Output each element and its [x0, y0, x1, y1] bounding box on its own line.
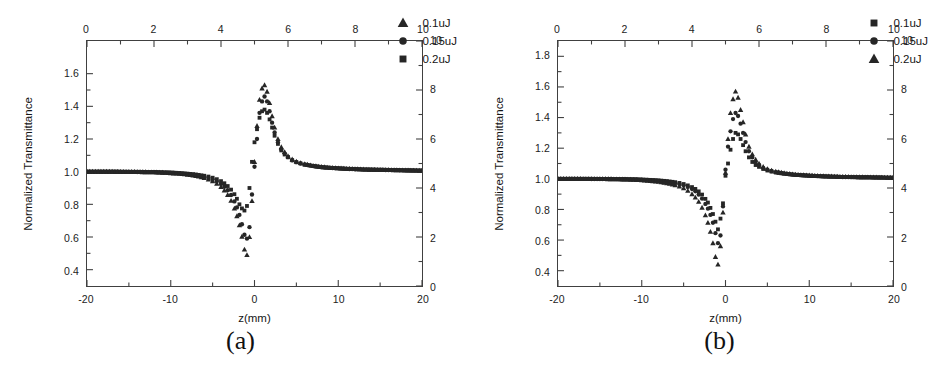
- y-tick-left: 1.8: [535, 49, 550, 61]
- x-tick-bottom: -10: [163, 293, 178, 305]
- y-tick-left: 1.4: [64, 100, 79, 112]
- y-tick-left: 0.8: [535, 204, 550, 216]
- x-tick-top: 8: [824, 23, 830, 35]
- square-marker-icon: [868, 17, 880, 29]
- y-axis-title-a: Normalized Transmittance: [20, 40, 36, 287]
- legend-label: 0.1uJ: [422, 17, 450, 29]
- y-tick-left: 1.6: [535, 80, 550, 92]
- triangle-marker-icon: [397, 17, 409, 29]
- legend-label: 0.1uJ: [893, 17, 921, 29]
- x-tick-top: 6: [756, 23, 762, 35]
- legend-item[interactable]: 0.15uJ: [868, 34, 928, 48]
- y-tick-left: 0.6: [535, 235, 550, 247]
- y-tick-right: 0: [901, 281, 907, 293]
- y-tick-left: 1.2: [64, 133, 79, 145]
- legend-item[interactable]: 0.1uJ: [868, 16, 928, 30]
- panel-caption-a: (a): [0, 326, 471, 356]
- y-tick-left: 0.6: [64, 232, 79, 244]
- x-tick-bottom: 0: [252, 293, 258, 305]
- y-tick-right: 6: [901, 133, 907, 145]
- y-tick-right: 4: [901, 182, 907, 194]
- x-tick-top: 4: [689, 23, 695, 35]
- series-0.15uJ: [87, 94, 422, 240]
- y-tick-left: 0.4: [535, 266, 550, 278]
- x-tick-top: 2: [150, 23, 156, 35]
- legend-label: 0.15uJ: [422, 35, 457, 47]
- x-tick-top: 4: [218, 23, 224, 35]
- legend-label: 0.2uJ: [422, 53, 450, 65]
- square-marker-icon: [397, 53, 409, 65]
- y-tick-right: 2: [901, 232, 907, 244]
- x-tick-bottom: -10: [634, 293, 649, 305]
- panel-caption-label-a: (a): [216, 326, 255, 355]
- y-tick-left: 1.0: [535, 173, 550, 185]
- circle-marker-icon: [397, 35, 409, 47]
- x-tick-bottom: 20: [417, 293, 429, 305]
- legend-item[interactable]: 0.1uJ: [397, 16, 457, 30]
- x-tick-bottom: 10: [804, 293, 816, 305]
- scatter-plot-a: [87, 41, 422, 286]
- panel-a: Normalized Transmittance -20-10010200246…: [0, 0, 471, 381]
- y-tick-left: 0.8: [64, 199, 79, 211]
- x-tick-top: 0: [554, 23, 560, 35]
- legend-item[interactable]: 0.2uJ: [868, 52, 928, 66]
- y-tick-right: 6: [430, 133, 436, 145]
- x-axis-title-b: z(mm): [557, 312, 894, 324]
- scatter-plot-b: [558, 41, 893, 286]
- x-tick-top: 8: [353, 23, 359, 35]
- legend-label: 0.2uJ: [893, 53, 921, 65]
- x-tick-top: 0: [83, 23, 89, 35]
- y-tick-left: 1.6: [64, 67, 79, 79]
- x-axis-title-a: z(mm): [86, 312, 423, 324]
- y-tick-right: 8: [430, 83, 436, 95]
- panel-caption-b: (b): [471, 326, 942, 356]
- legend-label: 0.15uJ: [893, 35, 928, 47]
- y-axis-title-label-b: Normalized Transmittance: [493, 97, 505, 231]
- figure-root: Normalized Transmittance -20-10010200246…: [0, 0, 942, 381]
- triangle-marker-icon: [868, 53, 880, 65]
- y-tick-right: 0: [430, 281, 436, 293]
- y-axis-title-label-a: Normalized Transmittance: [22, 97, 34, 231]
- y-tick-right: 2: [430, 232, 436, 244]
- legend-item[interactable]: 0.2uJ: [397, 52, 457, 66]
- circle-marker-icon: [868, 35, 880, 47]
- x-tick-top: 6: [285, 23, 291, 35]
- x-tick-bottom: 20: [888, 293, 900, 305]
- x-tick-bottom: 10: [333, 293, 345, 305]
- x-tick-top: 2: [621, 23, 627, 35]
- plot-area-b: [557, 40, 894, 287]
- legend-b: 0.1uJ0.15uJ0.2uJ: [868, 16, 928, 66]
- x-tick-bottom: -20: [549, 293, 564, 305]
- y-tick-left: 0.4: [64, 265, 79, 277]
- y-tick-left: 1.2: [535, 142, 550, 154]
- panel-caption-label-b: (b): [678, 326, 734, 355]
- legend-item[interactable]: 0.15uJ: [397, 34, 457, 48]
- y-tick-left: 1.4: [535, 111, 550, 123]
- plot-area-a: [86, 40, 423, 287]
- legend-a: 0.1uJ0.15uJ0.2uJ: [397, 16, 457, 66]
- panel-b: Normalized Transmittance -20-10010200246…: [471, 0, 942, 381]
- x-tick-bottom: -20: [78, 293, 93, 305]
- y-tick-right: 4: [430, 182, 436, 194]
- x-tick-bottom: 0: [723, 293, 729, 305]
- y-tick-left: 1.0: [64, 166, 79, 178]
- y-axis-title-b: Normalized Transmittance: [491, 40, 507, 287]
- y-tick-right: 8: [901, 83, 907, 95]
